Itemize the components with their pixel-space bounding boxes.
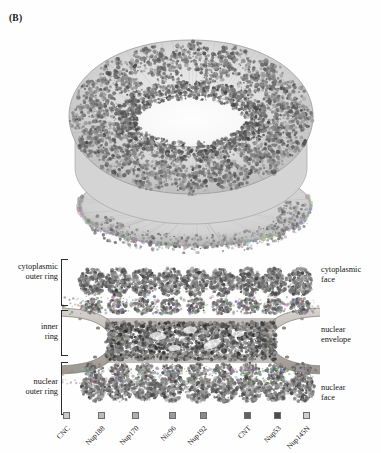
- cytoplasmic-ring-density: [62, 266, 319, 315]
- label-line-2: face: [321, 393, 381, 403]
- bracket-nuclear-outer-ring: [61, 362, 68, 415]
- label-nuclear-outer-ring: nuclear outer ring: [0, 377, 58, 398]
- label-nuclear-face: nuclear face: [321, 383, 381, 404]
- label-line-1: nuclear: [321, 383, 381, 393]
- panel-label: (B): [9, 13, 22, 23]
- legend-color-swatch: [132, 412, 139, 419]
- legend-label-text: CNC: [55, 423, 73, 441]
- bracket-cytoplasmic-outer-ring: [61, 259, 68, 306]
- label-nuclear-envelope: nuclear envelope: [321, 325, 381, 346]
- legend-label-text: Nup53: [262, 423, 283, 444]
- label-line-1: nuclear: [321, 325, 381, 335]
- label-line-2: ring: [0, 332, 58, 342]
- legend-label-text: Nup145N: [285, 423, 313, 451]
- label-line-1: cytoplasmic: [0, 262, 58, 272]
- legend-label-text: Nup170: [117, 423, 141, 447]
- label-line-2: outer ring: [0, 387, 58, 397]
- legend-color-swatch: [169, 412, 176, 419]
- legend-label-text: Nup188: [83, 423, 107, 447]
- label-inner-ring: inner ring: [0, 322, 58, 343]
- label-line-1: nuclear: [0, 377, 58, 387]
- subunit-color-legend: CNCNup188Nup170Nic96Nup192CNTNup53Nup145…: [0, 412, 381, 453]
- legend-label-text: Nup192: [185, 423, 209, 447]
- legend-color-swatch: [98, 412, 105, 419]
- label-line-1: inner: [0, 322, 58, 332]
- legend-color-swatch: [63, 412, 70, 419]
- inner-ring-density: [104, 320, 277, 362]
- label-cytoplasmic-outer-ring: cytoplasmic outer ring: [0, 262, 58, 283]
- label-cytoplasmic-face: cytoplasmic face: [321, 265, 381, 286]
- legend-color-swatch: [244, 412, 251, 419]
- legend-label-text: Nic96: [159, 423, 179, 443]
- legend-label-text: CNT: [236, 423, 254, 441]
- nuclear-pore-complex-cross-section: [62, 256, 320, 414]
- legend-color-swatch: [200, 412, 207, 419]
- label-line-2: outer ring: [0, 272, 58, 282]
- figure-panel-b: (B): [0, 0, 381, 453]
- bracket-inner-ring: [61, 310, 68, 356]
- render-canvas: [55, 18, 327, 254]
- cross-section-canvas: [62, 256, 320, 414]
- label-line-2: envelope: [321, 335, 381, 345]
- legend-color-swatch: [303, 412, 310, 419]
- legend-color-swatch: [274, 412, 281, 419]
- label-line-2: face: [321, 275, 381, 285]
- nuclear-ring-density: [62, 362, 318, 404]
- nuclear-pore-complex-3d-render: [55, 18, 327, 254]
- label-line-1: cytoplasmic: [321, 265, 381, 275]
